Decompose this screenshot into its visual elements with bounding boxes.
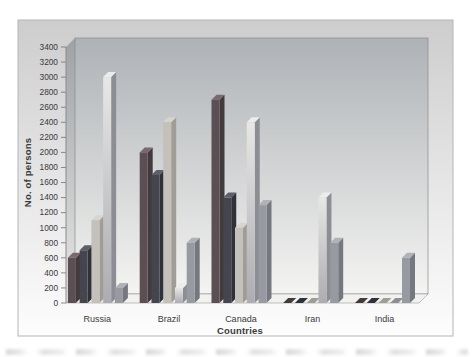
y-tick-label: 2400 <box>40 117 59 127</box>
x-category-label: Russia <box>84 314 112 324</box>
bar-brazil-series-3-side <box>171 117 176 303</box>
y-tick-label: 400 <box>44 268 58 278</box>
x-category-label: Iran <box>305 314 321 324</box>
y-tick-label: 1400 <box>40 192 59 202</box>
bar-canada-series-3 <box>235 228 243 303</box>
y-tick-label: 1800 <box>40 162 59 172</box>
bar-brazil-series-5-side <box>195 238 200 303</box>
bar-chart-svg: 0200400600800100012001400160018002000220… <box>0 0 473 357</box>
bar-russia-series-2 <box>80 250 88 303</box>
y-tick-label: 0 <box>53 298 58 308</box>
cropped-caption-strip <box>6 349 468 355</box>
bar-iran-series-4 <box>318 198 326 303</box>
x-category-label: Brazil <box>158 314 181 324</box>
y-tick-label: 3400 <box>40 42 59 52</box>
bar-russia-series-4-side <box>111 72 116 303</box>
bar-canada-series-1 <box>212 100 220 303</box>
bar-india-series-5-side <box>410 253 415 303</box>
y-tick-label: 2600 <box>40 102 59 112</box>
bar-brazil-series-5 <box>187 243 195 303</box>
bar-india-series-5 <box>402 258 410 303</box>
bar-brazil-series-3 <box>163 122 171 303</box>
figure: 0200400600800100012001400160018002000220… <box>0 0 473 357</box>
x-axis-title: Countries <box>180 325 300 336</box>
y-tick-label: 2200 <box>40 132 59 142</box>
y-tick-label: 200 <box>44 283 58 293</box>
y-axis-title: No. of persons <box>22 113 33 233</box>
y-tick-label: 1200 <box>40 207 59 217</box>
x-category-label: Canada <box>225 314 257 324</box>
bar-canada-series-5 <box>259 205 267 303</box>
x-category-label: India <box>375 314 395 324</box>
bar-brazil-series-1 <box>140 152 148 303</box>
bar-iran-series-5-side <box>338 238 343 303</box>
bar-russia-series-5 <box>115 288 123 303</box>
y-tick-label: 1000 <box>40 223 59 233</box>
bar-russia-series-1 <box>68 258 76 303</box>
bar-iran-series-5 <box>330 243 338 303</box>
bar-russia-series-4 <box>103 77 111 303</box>
y-tick-label: 3200 <box>40 57 59 67</box>
bar-canada-series-2 <box>223 198 231 303</box>
y-tick-label: 2000 <box>40 147 59 157</box>
bar-canada-series-4 <box>247 122 255 303</box>
y-tick-label: 800 <box>44 238 58 248</box>
bar-brazil-series-2 <box>151 175 159 303</box>
bar-canada-series-5-side <box>267 200 272 303</box>
y-tick-label: 1600 <box>40 177 59 187</box>
bar-russia-series-3 <box>91 220 99 303</box>
y-tick-label: 2800 <box>40 87 59 97</box>
bar-brazil-series-4 <box>175 288 183 303</box>
y-tick-label: 600 <box>44 253 58 263</box>
y-tick-label: 3000 <box>40 72 59 82</box>
